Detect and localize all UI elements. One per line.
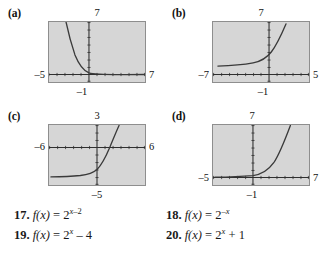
panel-d-plot (213, 125, 309, 185)
panel-a-screen (48, 21, 146, 83)
exercise-20-equals: = (205, 228, 212, 242)
exercise-19-equals: = (53, 228, 60, 242)
exercise-item-18: 18.f(x) = 2–x (166, 208, 318, 222)
exercise-18-number: 18. (166, 208, 182, 222)
graph-panel-a: (a) (8, 8, 158, 103)
panel-d-svg (213, 125, 309, 185)
panel-b-label-right: 5 (313, 70, 318, 81)
panel-b-label-left: –7 (199, 70, 210, 81)
exercise-20-exponent: x (222, 226, 226, 236)
panel-a-label-left: –5 (35, 70, 46, 81)
panel-a-label-bottom: –1 (77, 87, 88, 98)
exercise-row: 17.f(x) = 2x–2 18.f(x) = 2–x (14, 208, 318, 228)
panel-a-label-right: 7 (149, 70, 154, 81)
exercise-item-20: 20.f(x) = 2x + 1 (166, 228, 318, 242)
exercise-19-exponent: x (70, 226, 74, 236)
panel-b-svg (213, 22, 309, 82)
panel-d-label-left: –5 (199, 173, 210, 184)
exercise-17-number: 17. (14, 208, 30, 222)
panel-a-label-top: 7 (94, 8, 99, 19)
panel-d-letter: (d) (172, 111, 185, 123)
exercise-17-function: f(x) (33, 208, 50, 222)
panel-a-plot (49, 22, 145, 82)
exercise-list: 17.f(x) = 2x–2 18.f(x) = 2–x 19.f(x) = 2… (14, 208, 318, 248)
panel-c-label-left: –6 (35, 142, 46, 153)
panel-c-letter: (c) (8, 111, 20, 123)
panel-d-label-right: 7 (313, 173, 318, 184)
exercise-18-equals: = (205, 208, 212, 222)
exercise-18-exponent: –x (222, 206, 230, 216)
exercise-row: 19.f(x) = 2x – 4 20.f(x) = 2x + 1 (14, 228, 318, 248)
panel-d-label-top: 7 (249, 111, 254, 122)
exercise-19-tail: – 4 (76, 228, 92, 242)
graph-panel-b: (b) (172, 8, 327, 103)
exercise-item-17: 17.f(x) = 2x–2 (14, 208, 166, 222)
panel-b-label-bottom: –1 (258, 87, 269, 98)
exercise-20-tail: + 1 (228, 228, 244, 242)
exercise-17-equals: = (53, 208, 60, 222)
panel-b-label-top: 7 (258, 8, 263, 19)
exercise-19-number: 19. (14, 228, 30, 242)
panel-b-letter: (b) (172, 8, 185, 20)
panel-d-screen (212, 124, 310, 186)
exercise-19-function: f(x) (33, 228, 50, 242)
panel-b-screen (212, 21, 310, 83)
panel-c-label-bottom: –5 (92, 190, 103, 201)
graph-panel-d: (d) (172, 111, 327, 206)
panel-c-screen (48, 124, 146, 186)
panel-d-label-bottom: –1 (247, 190, 258, 201)
exercise-17-exponent: x–2 (70, 206, 82, 216)
exercise-item-19: 19.f(x) = 2x – 4 (14, 228, 166, 242)
panel-c-label-right: 6 (149, 142, 154, 153)
panel-c-svg (49, 125, 145, 185)
exercise-18-function: f(x) (185, 208, 202, 222)
panel-b-plot (213, 22, 309, 82)
graph-panel-c: (c) (8, 111, 158, 206)
panel-a-letter: (a) (8, 8, 21, 20)
exercise-20-number: 20. (166, 228, 182, 242)
panel-c-label-top: 3 (94, 111, 99, 122)
panel-c-plot (49, 125, 145, 185)
exercise-20-function: f(x) (185, 228, 202, 242)
panel-a-svg (49, 22, 145, 82)
page-root: (a) (0, 0, 330, 261)
